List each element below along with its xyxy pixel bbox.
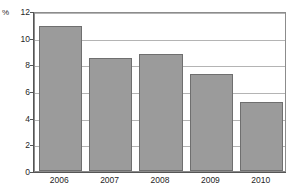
x-axis-tick-label: 2006 <box>50 175 69 185</box>
y-axis-tick-mark <box>30 119 33 120</box>
bar-2007 <box>89 58 132 171</box>
y-axis-tick-mark <box>30 12 33 13</box>
gridline <box>35 13 285 14</box>
x-axis-tick-label: 2010 <box>251 175 270 185</box>
x-axis-line <box>33 172 286 173</box>
bar-2008 <box>139 54 182 171</box>
y-axis-tick-mark <box>30 145 33 146</box>
y-axis-tick-label: 10 <box>10 34 30 44</box>
y-axis-tick-mark <box>30 92 33 93</box>
bar-2006 <box>39 26 82 171</box>
bar-2009 <box>190 74 233 171</box>
bar-chart: % 024681012 20062007200820092010 <box>0 0 292 189</box>
y-axis-tick-label: 12 <box>10 7 30 17</box>
plot-area <box>34 12 286 172</box>
x-axis-tick-label: 2008 <box>151 175 170 185</box>
y-axis-tick-mark <box>30 39 33 40</box>
y-axis-unit-label: % <box>2 8 9 17</box>
y-axis-tick-label: 8 <box>10 60 30 70</box>
y-axis-tick-label: 0 <box>10 167 30 177</box>
x-axis-tick-label: 2007 <box>100 175 119 185</box>
y-axis-tick-mark <box>30 65 33 66</box>
x-axis-tick-label: 2009 <box>201 175 220 185</box>
y-axis-tick-label: 2 <box>10 140 30 150</box>
bar-2010 <box>240 102 283 171</box>
y-axis-tick-label: 4 <box>10 114 30 124</box>
y-axis-tick-mark <box>30 172 33 173</box>
y-axis-tick-label: 6 <box>10 87 30 97</box>
